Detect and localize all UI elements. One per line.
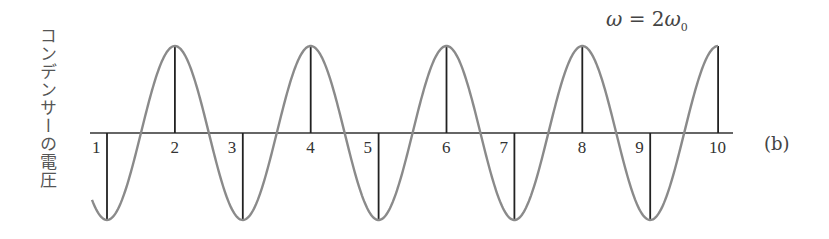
sample-label-6: 6 [442,138,451,158]
sample-label-3: 3 [228,138,237,158]
frequency-formula: ω = 2ω0 [606,7,688,34]
sample-label-2: 2 [170,138,179,158]
sample-label-10: 10 [709,138,726,158]
sample-label-1: 1 [92,138,101,158]
sample-label-5: 5 [364,138,373,158]
sample-label-7: 7 [499,138,508,158]
sample-label-4: 4 [306,138,315,158]
sample-label-9: 9 [635,138,644,158]
y-axis-label: コンデンサーの電圧 [36,8,60,208]
voltage-diagram [0,0,829,239]
sample-label-8: 8 [578,138,587,158]
panel-label: (b) [764,133,790,154]
